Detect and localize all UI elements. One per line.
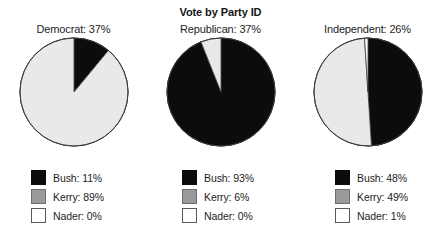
pie-slice-kerry [20, 38, 128, 146]
legend-label-kerry: Kerry: 89% [53, 191, 104, 203]
legend-label-kerry: Kerry: 49% [357, 191, 408, 203]
legend-item: Bush: 11% [31, 168, 139, 187]
pie-panel-republican: Republican: 37% Bush: 93% Kerry: 6% Nade… [147, 22, 294, 230]
pie-slice-bush [368, 38, 422, 146]
legend-item: Nader: 0% [31, 206, 139, 225]
legend-swatch-bush [335, 170, 350, 185]
legend-item: Kerry: 6% [182, 187, 290, 206]
pie-svg [163, 36, 279, 150]
pie-svg [16, 36, 132, 150]
page-title: Vote by Party ID [0, 6, 441, 18]
pie-panel-independent: Independent: 26% Bush: 48% Kerry: 49% Na… [294, 22, 441, 230]
legend-label-bush: Bush: 93% [204, 172, 254, 184]
pie-chart-independent [294, 36, 441, 148]
legend-swatch-kerry [182, 189, 197, 204]
legend-swatch-bush [182, 170, 197, 185]
pie-slice-kerry [313, 38, 370, 146]
legend-swatch-nader [335, 208, 350, 223]
legend-swatch-bush [31, 170, 46, 185]
legend-label-nader: Nader: 1% [357, 210, 406, 222]
legend-item: Nader: 0% [182, 206, 290, 225]
pie-chart-republican [147, 36, 294, 148]
legend-item: Bush: 48% [335, 168, 441, 187]
legend-item: Bush: 93% [182, 168, 290, 187]
legend-democrat: Bush: 11% Kerry: 89% Nader: 0% [31, 168, 139, 225]
legend-item: Nader: 1% [335, 206, 441, 225]
legend-swatch-kerry [31, 189, 46, 204]
pie-panel-label: Independent: 26% [294, 22, 441, 36]
legend-label-nader: Nader: 0% [204, 210, 253, 222]
legend-label-kerry: Kerry: 6% [204, 191, 249, 203]
legend-swatch-kerry [335, 189, 350, 204]
pie-panel-democrat: Democrat: 37% Bush: 11% Kerry: 89% Nader… [0, 22, 147, 230]
legend-republican: Bush: 93% Kerry: 6% Nader: 0% [182, 168, 290, 225]
legend-swatch-nader [31, 208, 46, 223]
legend-item: Kerry: 89% [31, 187, 139, 206]
legend-item: Kerry: 49% [335, 187, 441, 206]
legend-label-nader: Nader: 0% [53, 210, 102, 222]
legend-label-bush: Bush: 48% [357, 172, 407, 184]
legend-label-bush: Bush: 11% [53, 172, 102, 184]
pie-panel-label: Democrat: 37% [0, 22, 147, 36]
pie-chart-democrat [0, 36, 147, 148]
legend-swatch-nader [182, 208, 197, 223]
legend-independent: Bush: 48% Kerry: 49% Nader: 1% [335, 168, 441, 225]
pie-svg [310, 36, 426, 150]
pie-panel-label: Republican: 37% [147, 22, 294, 36]
